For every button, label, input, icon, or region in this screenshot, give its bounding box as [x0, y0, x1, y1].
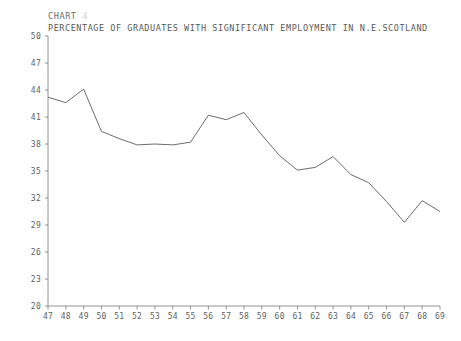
x-tick-label: 49: [79, 312, 89, 321]
chart-page: CHART4 PERCENTAGE OF GRADUATES WITH SIGN…: [0, 0, 461, 341]
x-tick-label: 53: [150, 312, 160, 321]
x-tick-label: 57: [221, 312, 231, 321]
x-tick-label: 54: [168, 312, 178, 321]
y-tick-label: 38: [31, 140, 41, 149]
y-tick-label: 41: [31, 113, 41, 122]
x-tick-label: 47: [43, 312, 53, 321]
x-tick-label: 63: [328, 312, 338, 321]
y-tick-label: 35: [31, 167, 41, 176]
x-tick-label: 51: [114, 312, 124, 321]
y-tick-label: 20: [31, 302, 41, 311]
y-tick-label: 44: [31, 86, 41, 95]
x-tick-label: 58: [239, 312, 249, 321]
y-axis: 5047444138353229262320: [31, 32, 48, 311]
x-tick-label: 64: [346, 312, 356, 321]
x-tick-label: 48: [61, 312, 71, 321]
x-tick-label: 68: [417, 312, 427, 321]
x-tick-label: 60: [275, 312, 285, 321]
y-tick-label: 32: [31, 194, 41, 203]
x-tick-label: 65: [364, 312, 374, 321]
x-tick-label: 59: [257, 312, 267, 321]
x-tick-label: 67: [399, 312, 409, 321]
chart-plot: 5047444138353229262320 47484950515253545…: [0, 0, 461, 341]
x-axis: 4748495051525354555657585960616263646566…: [43, 306, 445, 321]
x-tick-label: 61: [292, 312, 302, 321]
x-tick-label: 56: [203, 312, 213, 321]
x-tick-label: 62: [310, 312, 320, 321]
y-tick-label: 50: [31, 32, 41, 41]
x-tick-label: 69: [435, 312, 445, 321]
x-tick-label: 50: [96, 312, 106, 321]
y-tick-label: 23: [31, 275, 41, 284]
data-line-series-percentage: [48, 89, 440, 222]
y-tick-label: 26: [31, 248, 41, 257]
x-tick-label: 66: [382, 312, 392, 321]
x-tick-label: 52: [132, 312, 142, 321]
y-tick-label: 47: [31, 59, 41, 68]
y-tick-label: 29: [31, 221, 41, 230]
x-tick-label: 55: [186, 312, 196, 321]
